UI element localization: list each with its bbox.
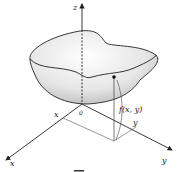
z-axis-label: z [72,3,78,12]
function-label: f(x, y) [118,105,142,114]
surface-diagram: z 0 x x f(x, y) y y [0,0,177,172]
point-y-label: y [132,118,138,127]
projection-y-line [114,127,136,141]
y-axis-label: y [161,156,167,165]
x-axis-label: x [10,159,15,168]
x-axis [6,104,82,160]
origin-label: 0 [79,109,83,116]
projection-x-line [63,118,114,141]
point-x-label: x [54,110,59,119]
caption-bar [74,170,84,172]
surface-point [112,75,116,79]
